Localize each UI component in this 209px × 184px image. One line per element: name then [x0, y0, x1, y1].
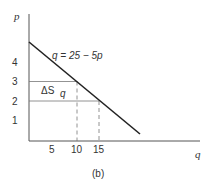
x-tick-5: 5: [49, 144, 55, 155]
chart: p q 4 3 2 1 5 10 15 q = 25 − 5p ΔS q (b): [0, 0, 209, 184]
delta-s-subscript: q: [60, 88, 66, 99]
y-tick-3: 3: [12, 76, 18, 87]
x-axis-label: q: [195, 148, 201, 160]
y-axis-label: p: [13, 10, 20, 22]
y-tick-2: 2: [12, 96, 18, 107]
y-tick-1: 1: [12, 115, 18, 126]
figure-caption: (b): [92, 168, 104, 179]
delta-s-label: ΔS: [41, 85, 55, 96]
y-tick-4: 4: [12, 57, 18, 68]
delta-s-main: ΔS: [41, 85, 55, 96]
equation-label: q = 25 − 5p: [52, 50, 103, 61]
x-tick-15: 15: [93, 144, 105, 155]
x-tick-10: 10: [71, 144, 83, 155]
